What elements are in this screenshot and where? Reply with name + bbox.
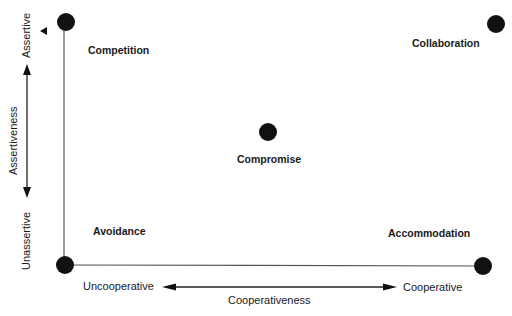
competition-dot — [57, 13, 75, 31]
x-axis-low-label: Uncooperative — [83, 280, 154, 292]
y-axis-low-label: Unassertive — [20, 212, 32, 270]
y-axis-title: Assertiveness — [7, 107, 19, 175]
mode-label-accommodation: Accommodation — [388, 227, 470, 239]
accommodation-dot — [474, 257, 492, 275]
mode-label-avoidance: Avoidance — [93, 225, 146, 237]
arrow-down-icon — [23, 187, 31, 198]
mode-label-collaboration: Collaboration — [412, 37, 480, 49]
pointer-triangle-icon — [40, 27, 47, 35]
y-axis-high-label: Assertive — [20, 13, 32, 58]
collaboration-dot — [487, 15, 505, 33]
x-axis-line — [64, 265, 483, 266]
mode-label-compromise: Compromise — [237, 153, 301, 165]
mode-label-competition: Competition — [88, 44, 149, 56]
arrow-up-icon — [23, 64, 31, 75]
arrow-left-icon — [162, 284, 176, 291]
avoidance-dot — [56, 256, 74, 274]
x-axis-title: Cooperativeness — [228, 294, 311, 306]
compromise-dot — [259, 123, 277, 141]
x-axis-high-label: Cooperative — [403, 281, 462, 293]
arrow-right-icon — [383, 284, 397, 291]
